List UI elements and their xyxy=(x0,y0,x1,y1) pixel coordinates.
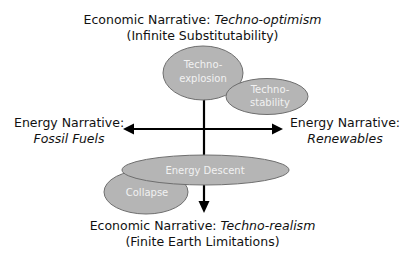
scenario-techno-stability: Techno- stability xyxy=(226,79,308,115)
right-arrowhead-icon xyxy=(272,124,283,135)
svg-text:Techno-: Techno- xyxy=(250,84,290,95)
svg-text:Energy Descent: Energy Descent xyxy=(165,165,244,176)
scenario-energy-descent: Energy Descent xyxy=(122,155,289,185)
left-arrowhead-icon xyxy=(123,124,134,135)
collapse-label: Collapse xyxy=(126,187,169,198)
svg-text:stability: stability xyxy=(250,97,290,108)
diagram-canvas: Techno- explosion Techno- stability Ener… xyxy=(0,0,405,259)
svg-text:explosion: explosion xyxy=(179,73,227,84)
svg-text:Techno-: Techno- xyxy=(183,59,223,70)
vertical-arrowhead-icon xyxy=(199,201,210,213)
